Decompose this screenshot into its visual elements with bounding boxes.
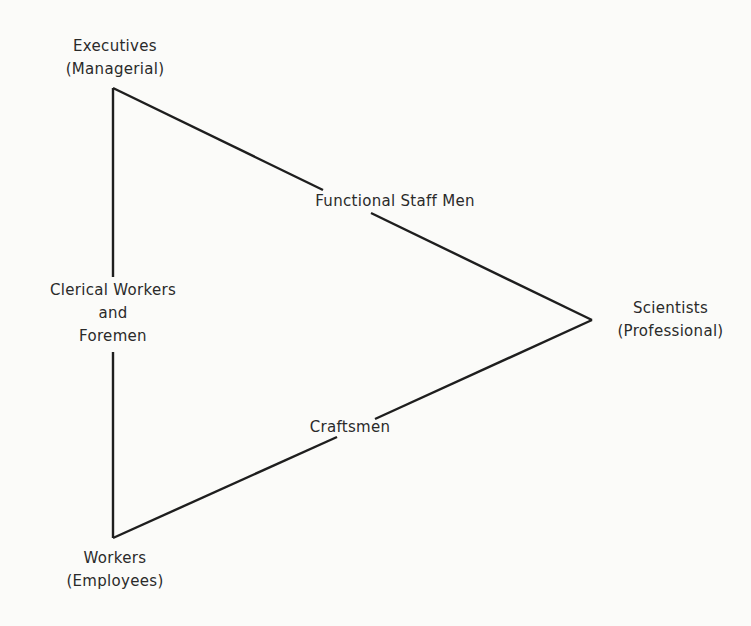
workers-label: Workers (Employees) — [50, 547, 180, 593]
clerical-line3: Foremen — [28, 325, 198, 348]
executives-subtitle: (Managerial) — [50, 58, 180, 81]
craftsmen-text: Craftsmen — [300, 416, 400, 439]
scientists-title: Scientists — [603, 297, 738, 320]
functional-staff-label: Functional Staff Men — [300, 190, 490, 213]
executives-label: Executives (Managerial) — [50, 35, 180, 81]
clerical-line1: Clerical Workers — [28, 279, 198, 302]
lower-edge-right — [375, 320, 592, 419]
upper-edge-right — [371, 213, 592, 320]
executives-title: Executives — [50, 35, 180, 58]
functional-staff-text: Functional Staff Men — [300, 190, 490, 213]
scientists-label: Scientists (Professional) — [603, 297, 738, 343]
workers-title: Workers — [50, 547, 180, 570]
upper-edge-left — [113, 88, 323, 190]
clerical-label: Clerical Workers and Foremen — [28, 279, 198, 348]
clerical-line2: and — [28, 302, 198, 325]
lower-edge-left — [113, 437, 337, 538]
workers-subtitle: (Employees) — [50, 570, 180, 593]
craftsmen-label: Craftsmen — [300, 416, 400, 439]
scientists-subtitle: (Professional) — [603, 320, 738, 343]
